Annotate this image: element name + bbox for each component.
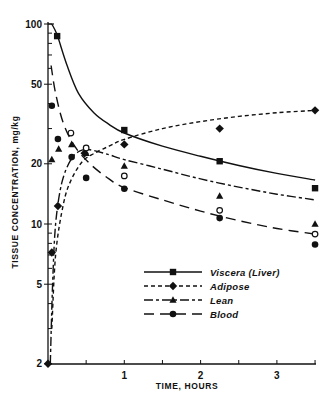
x-tick-label: 2 [198,370,204,381]
axes: 10050201052123 [25,19,316,382]
legend-diamond-icon [169,282,177,290]
legend-label: Lean [210,295,233,306]
curve-adipose [52,110,315,328]
circle-marker [312,241,319,248]
square-marker [121,127,127,133]
legend: Viscera (Liver)AdiposeLeanBlood [144,267,280,320]
x-tick-label: 3 [274,370,280,381]
y-tick-label: 2 [36,358,42,369]
open-circle-marker [122,173,128,179]
data-markers [44,33,319,368]
legend-label: Adipose [209,281,250,292]
diamond-marker [54,202,62,210]
circle-marker [68,154,75,161]
legend-label: Viscera (Liver) [210,267,280,278]
circle-marker [83,175,90,182]
open-circle-marker [312,231,318,237]
curve-lean [50,149,315,363]
triangle-marker [48,156,55,163]
x-axis-title: TIME, HOURS [156,381,218,391]
y-tick-label: 5 [36,279,42,290]
triangle-marker [311,220,318,227]
legend-item: Blood [144,309,238,320]
y-tick-label: 50 [31,79,43,90]
chart: 10050201052123 Viscera (Liver)AdiposeLea… [0,0,335,408]
triangle-marker [121,162,128,169]
square-marker [216,158,222,164]
curve-viscera-liver [52,24,315,180]
triangle-marker [55,145,62,152]
circle-marker [49,102,56,109]
triangle-marker [68,141,75,148]
diamond-marker [120,140,128,148]
open-circle-marker [83,145,89,151]
legend-square-icon [170,269,176,275]
legend-circle-icon [170,311,177,318]
diamond-marker [311,106,319,114]
circle-marker [55,136,62,143]
circle-marker [121,185,128,192]
open-circle-marker [217,208,223,214]
legend-item: Adipose [144,281,250,292]
circle-marker [216,215,223,222]
y-tick-label: 100 [25,19,42,30]
x-tick-label: 1 [122,370,128,381]
legend-item: Lean [144,295,233,306]
square-marker [312,185,318,191]
legend-item: Viscera (Liver) [144,267,280,278]
y-axis-title: TISSUE CONCENTRATION, mg/kg [10,116,20,269]
y-tick-label: 10 [31,219,43,230]
diamond-marker [215,124,223,132]
open-circle-marker [68,130,74,136]
y-tick-label: 20 [31,158,43,169]
square-marker [54,33,60,39]
legend-label: Blood [210,309,238,320]
curves [50,24,315,364]
triangle-marker [216,192,223,199]
